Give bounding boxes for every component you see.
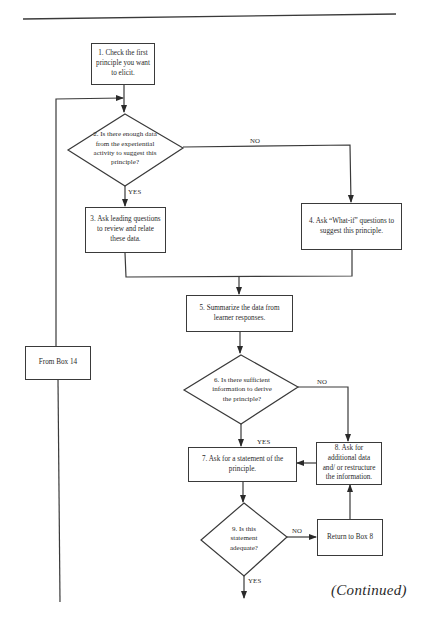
box-5-text: 5. Summarize the data from learner respo…	[191, 304, 288, 323]
decision-2-yes-label: YES	[128, 188, 141, 195]
box-8-text: 8. Ask for additional data and/ or restr…	[321, 444, 377, 483]
box-4-what-if-questions: 4. Ask “What-if” questions to suggest th…	[301, 203, 402, 250]
decision-2-text: 2. Is there enough data from the experie…	[92, 124, 158, 174]
box-3-leading-questions: 3. Ask leading questions to review and r…	[85, 207, 166, 253]
decision-6-no-label: NO	[317, 378, 327, 385]
decision-9-yes-label: YES	[248, 577, 261, 584]
box-1-check-principle: 1. Check the first principle you want to…	[91, 43, 155, 85]
box-4-text: 4. Ask “What-if” questions to suggest th…	[306, 217, 397, 236]
box-5-summarize: 5. Summarize the data from learner respo…	[186, 295, 293, 332]
box-1-text: 1. Check the first principle you want to…	[96, 49, 150, 78]
return-to-box-8: Return to Box 8	[317, 519, 383, 556]
continued-label: (Continued)	[331, 582, 407, 599]
box-3-text: 3. Ask leading questions to review and r…	[90, 215, 161, 244]
decision-6-yes-label: YES	[257, 438, 270, 445]
box-7-text: 7. Ask for a statement of the principle.	[193, 455, 292, 474]
from-box-14-text: From Box 14	[39, 358, 77, 368]
decision-6-text: 6. Is there sufficient information to de…	[212, 370, 272, 410]
box-7-ask-statement: 7. Ask for a statement of the principle.	[188, 447, 297, 482]
return-to-box-8-text: Return to Box 8	[327, 533, 373, 543]
box-8-additional-data: 8. Ask for additional data and/ or restr…	[316, 442, 382, 485]
decision-9-text: 9. Is this statement adequate?	[218, 523, 270, 555]
from-box-14-connector: From Box 14	[25, 346, 91, 380]
decision-2-no-label: NO	[250, 137, 260, 144]
decision-9-no-label: NO	[292, 527, 302, 534]
top-rule	[23, 14, 396, 19]
